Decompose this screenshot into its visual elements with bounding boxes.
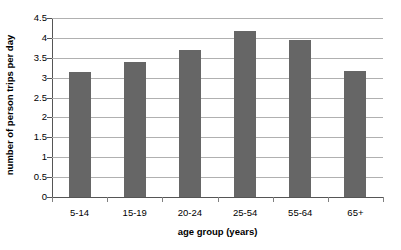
y-axis-tick-label: 2 xyxy=(3,112,47,122)
bar xyxy=(179,50,201,197)
x-axis-tick-label: 65+ xyxy=(327,207,383,218)
bar-chart-figure: number of person trips per day 00.511.52… xyxy=(0,0,401,250)
x-axis-tick-mark xyxy=(328,197,329,202)
gridline xyxy=(52,98,383,99)
x-axis-tick-label: 20-24 xyxy=(162,207,218,218)
bar xyxy=(344,71,366,197)
y-axis-tick-label: 3.5 xyxy=(3,53,47,63)
gridline xyxy=(52,117,383,118)
gridline xyxy=(52,137,383,138)
gridline xyxy=(52,177,383,178)
gridline xyxy=(52,58,383,59)
bar xyxy=(234,31,256,197)
y-axis-tick-label: 4.5 xyxy=(3,13,47,23)
bar xyxy=(124,62,146,197)
bar xyxy=(289,40,311,197)
x-axis-title: age group (years) xyxy=(52,226,383,237)
gridline xyxy=(52,78,383,79)
plot-area xyxy=(52,18,383,197)
y-axis-tick-label: 2.5 xyxy=(3,93,47,103)
x-axis-tick-label: 5-14 xyxy=(52,207,108,218)
x-axis-tick-mark xyxy=(218,197,219,202)
x-axis-tick-label: 25-54 xyxy=(217,207,273,218)
x-axis-tick-label: 15-19 xyxy=(107,207,163,218)
x-axis-tick-label: 55-64 xyxy=(272,207,328,218)
gridline xyxy=(52,38,383,39)
y-axis-tick-label: 3 xyxy=(3,73,47,83)
y-axis-tick-label: 1.5 xyxy=(3,132,47,142)
gridline xyxy=(52,18,383,19)
y-axis-tick-label: 4 xyxy=(3,33,47,43)
y-axis-tick-label: 0.5 xyxy=(3,172,47,182)
x-axis-tick-mark xyxy=(107,197,108,202)
y-axis-tick-label: 1 xyxy=(3,152,47,162)
x-axis-tick-mark xyxy=(52,197,53,202)
y-axis-tick-label: 0 xyxy=(3,192,47,202)
bar xyxy=(69,72,91,197)
gridline xyxy=(52,157,383,158)
x-axis-tick-mark xyxy=(383,197,384,202)
x-axis-tick-mark xyxy=(273,197,274,202)
x-axis-tick-mark xyxy=(162,197,163,202)
